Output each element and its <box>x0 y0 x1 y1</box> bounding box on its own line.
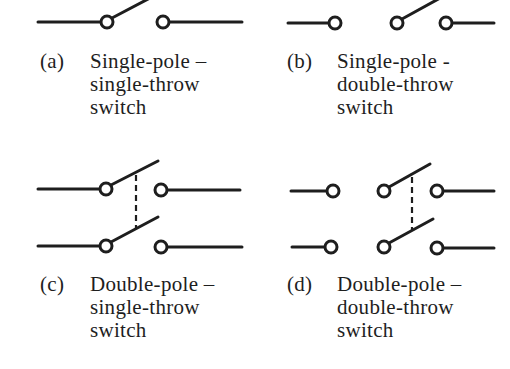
terminal-throw-b <box>440 17 452 29</box>
caption-line: Double-pole – <box>90 273 215 296</box>
caption-line: double-throw <box>337 73 454 96</box>
switch-arm <box>112 0 150 18</box>
caption-line: Single-pole - <box>337 50 454 73</box>
caption-text: Single-pole - double-throw switch <box>337 50 454 119</box>
caption-line: switch <box>90 96 206 119</box>
caption-line: single-throw <box>90 296 215 319</box>
caption-tag: (d) <box>287 273 312 296</box>
terminal-top-pivot <box>378 185 390 197</box>
switch-arm-top <box>389 164 430 187</box>
spst-symbol <box>38 0 242 28</box>
caption-text: Double-pole – double-throw switch <box>337 273 462 342</box>
caption-line: double-throw <box>337 296 462 319</box>
caption-text: Double-pole – single-throw switch <box>90 273 215 342</box>
dpdt-symbol <box>291 164 494 254</box>
switch-arm-top <box>111 161 158 185</box>
terminal-contact <box>157 16 169 28</box>
caption-line: switch <box>337 319 462 342</box>
dpst-symbol <box>38 161 242 253</box>
caption-line: switch <box>337 96 454 119</box>
caption-line: single-throw <box>90 73 206 96</box>
terminal-top-pivot <box>100 183 112 195</box>
switch-arm <box>402 0 442 19</box>
caption-tag: (c) <box>40 273 64 296</box>
terminal-top-throw-b <box>431 185 443 197</box>
terminal-top-contact <box>155 184 167 196</box>
caption-tag: (a) <box>40 50 64 73</box>
terminal-bottom-contact <box>155 241 167 253</box>
terminal-bottom-pivot <box>378 241 390 253</box>
caption-line: switch <box>90 319 215 342</box>
terminal-bottom-pivot <box>100 240 112 252</box>
caption-tag: (b) <box>287 50 312 73</box>
terminal-bottom-throw-b <box>431 242 443 254</box>
caption-line: Double-pole – <box>337 273 462 296</box>
spdt-symbol <box>288 0 494 29</box>
caption-line: Single-pole – <box>90 50 206 73</box>
terminal-pivot <box>391 17 403 29</box>
terminal-bottom-throw-a <box>325 241 337 253</box>
terminal-pivot <box>101 16 113 28</box>
terminal-top-throw-a <box>327 185 339 197</box>
terminal-throw-a <box>329 17 341 29</box>
caption-text: Single-pole – single-throw switch <box>90 50 206 119</box>
switch-arm-bottom <box>111 217 158 242</box>
